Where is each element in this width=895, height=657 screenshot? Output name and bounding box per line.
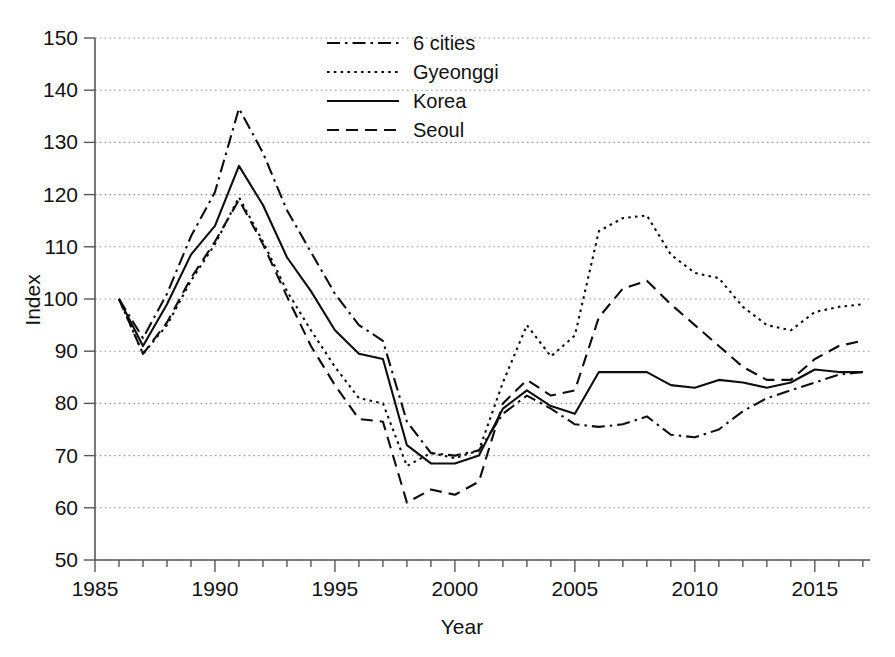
x-tick-label-1990: 1990 bbox=[192, 577, 239, 600]
y-tick-label-130: 130 bbox=[43, 130, 78, 153]
y-tick-label-140: 140 bbox=[43, 78, 78, 101]
y-tick-label-110: 110 bbox=[45, 235, 78, 258]
x-tick-label-2010: 2010 bbox=[671, 577, 718, 600]
y-tick-label-120: 120 bbox=[43, 183, 78, 206]
legend-label-gyeonggi: Gyeonggi bbox=[413, 61, 499, 83]
x-tick-label-2015: 2015 bbox=[791, 577, 838, 600]
x-tick-label-1985: 1985 bbox=[72, 577, 119, 600]
x-axis-title: Year bbox=[441, 615, 483, 638]
x-tick-label-2000: 2000 bbox=[432, 577, 479, 600]
x-tick-label-2005: 2005 bbox=[552, 577, 599, 600]
legend-label-korea: Korea bbox=[413, 90, 467, 112]
legend-label-seoul: Seoul bbox=[413, 119, 464, 141]
y-tick-label-70: 70 bbox=[55, 444, 78, 467]
y-axis-title: Index bbox=[21, 274, 44, 326]
y-tick-label-100: 100 bbox=[43, 287, 78, 310]
chart-container: 5060708090100110120130140150 19851990199… bbox=[0, 0, 895, 657]
line-chart-figure: 5060708090100110120130140150 19851990199… bbox=[0, 0, 895, 657]
y-tick-label-150: 150 bbox=[43, 26, 78, 49]
y-tick-label-80: 80 bbox=[55, 391, 78, 414]
y-tick-label-90: 90 bbox=[55, 339, 78, 362]
y-tick-label-50: 50 bbox=[55, 548, 78, 571]
y-tick-label-60: 60 bbox=[55, 496, 78, 519]
x-tick-label-1995: 1995 bbox=[312, 577, 359, 600]
legend-label-6-cities: 6 cities bbox=[413, 32, 475, 54]
